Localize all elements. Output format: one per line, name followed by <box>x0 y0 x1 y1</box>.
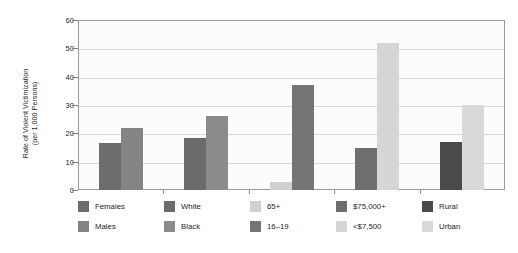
y-axis-ticks: 0102030405060 <box>52 0 74 253</box>
y-tick-mark <box>72 77 78 78</box>
chart-legend: FemalesMalesWhiteBlack65+16–19$75,000+<$… <box>78 198 508 242</box>
bar <box>270 182 292 191</box>
bar <box>462 105 484 190</box>
y-axis-title-line-1: Rate of Violent Victimization <box>22 28 31 198</box>
legend-swatch <box>250 201 261 212</box>
legend-swatch <box>422 201 433 212</box>
legend-label: Rural <box>439 202 458 211</box>
legend-swatch <box>164 201 175 212</box>
legend-label: 16–19 <box>267 222 289 231</box>
bars-container <box>78 20 505 190</box>
y-tick-mark <box>72 190 78 191</box>
legend-item[interactable]: $75,000+ <box>336 200 386 213</box>
bar <box>184 138 206 190</box>
legend-label: Males <box>95 222 116 231</box>
legend-swatch <box>250 221 261 232</box>
legend-label: 65+ <box>267 202 280 211</box>
y-tick-label: 40 <box>52 72 74 81</box>
bar <box>355 148 377 191</box>
bar <box>121 128 143 190</box>
legend-swatch <box>78 201 89 212</box>
bar <box>377 43 399 190</box>
legend-swatch <box>336 221 347 232</box>
y-tick-label: 10 <box>52 157 74 166</box>
y-tick-label: 50 <box>52 44 74 53</box>
legend-item[interactable]: <$7,500 <box>336 220 381 233</box>
x-tick-mark <box>163 190 164 194</box>
x-tick-mark <box>420 190 421 194</box>
bar <box>292 85 314 190</box>
y-tick-label: 60 <box>52 16 74 25</box>
y-tick-label: 0 <box>52 186 74 195</box>
bar <box>440 142 462 190</box>
y-tick-mark <box>72 48 78 49</box>
legend-item[interactable]: 65+ <box>250 200 280 213</box>
legend-item[interactable]: Urban <box>422 220 460 233</box>
legend-label: Females <box>95 202 125 211</box>
legend-item[interactable]: Black <box>164 220 200 233</box>
y-axis-title-line-2: (per 1,000 Persons) <box>31 28 40 198</box>
y-tick-label: 30 <box>52 101 74 110</box>
x-tick-mark <box>334 190 335 194</box>
legend-swatch <box>164 221 175 232</box>
legend-item[interactable]: Rural <box>422 200 458 213</box>
legend-label: Black <box>181 222 200 231</box>
legend-item[interactable]: Males <box>78 220 116 233</box>
violent-victimization-bar-chart: Rate of Violent Victimization (per 1,000… <box>0 0 518 253</box>
y-tick-mark <box>72 20 78 21</box>
bar <box>99 143 121 190</box>
y-tick-mark <box>72 105 78 106</box>
legend-swatch <box>422 221 433 232</box>
bar <box>206 116 228 190</box>
legend-label: $75,000+ <box>353 202 386 211</box>
legend-item[interactable]: 16–19 <box>250 220 289 233</box>
y-axis-title: Rate of Violent Victimization (per 1,000… <box>22 28 41 198</box>
y-tick-label: 20 <box>52 129 74 138</box>
legend-item[interactable]: White <box>164 200 201 213</box>
y-tick-mark <box>72 162 78 163</box>
legend-item[interactable]: Females <box>78 200 125 213</box>
legend-label: White <box>181 202 201 211</box>
y-tick-mark <box>72 133 78 134</box>
legend-label: Urban <box>439 222 460 231</box>
legend-swatch <box>78 221 89 232</box>
legend-label: <$7,500 <box>353 222 381 231</box>
legend-swatch <box>336 201 347 212</box>
x-tick-mark <box>249 190 250 194</box>
